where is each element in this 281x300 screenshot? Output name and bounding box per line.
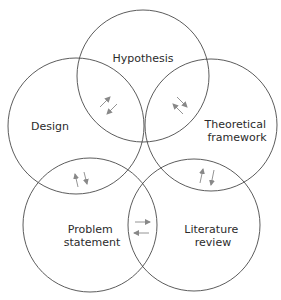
bidirectional-arrow-icon [100,97,117,114]
bidirectional-arrow-icon [200,169,214,185]
hypothesis-circle [77,10,209,142]
bidirectional-arrow-icon [75,172,87,187]
theoretical-framework-label: Theoretical framework [204,118,270,144]
problem-statement-label: Problem statement [64,223,121,249]
design-circle [8,58,144,194]
research-cycle-diagram: Hypothesis Design Theoretical framework … [0,0,281,300]
bidirectional-arrow-icon [134,222,150,233]
hypothesis-label: Hypothesis [112,52,173,65]
design-label: Design [31,120,69,133]
bidirectional-arrow-icon [173,97,187,114]
literature-review-label: Literature review [184,223,241,249]
